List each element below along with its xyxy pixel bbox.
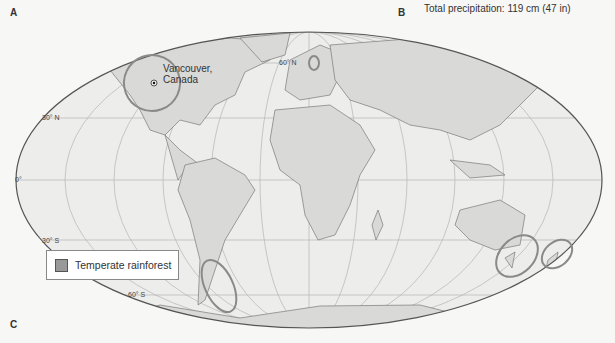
legend: Temperate rainforest — [46, 250, 179, 280]
lat-label-30n: 30° N — [42, 114, 60, 121]
lat-label-30s: 30° S — [42, 237, 59, 244]
vancouver-label: Vancouver, Canada — [163, 63, 212, 85]
legend-label: Temperate rainforest — [75, 259, 171, 271]
legend-swatch — [55, 259, 68, 272]
world-map — [0, 0, 615, 343]
lat-label-60s: 60° S — [128, 291, 145, 298]
lat-label-equator: 0° — [15, 176, 22, 183]
lat-label-60n: 60° N — [279, 59, 297, 66]
